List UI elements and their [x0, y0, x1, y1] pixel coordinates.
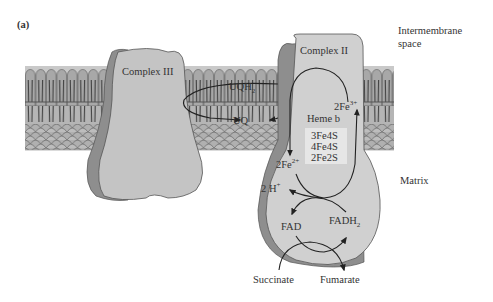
cluster-3fe4s: 3Fe4S [311, 130, 338, 141]
complex-ii-diagram: (a) Intermembrane space Complex III UQH2… [0, 0, 493, 302]
cluster-4fe4s: 4Fe4S [311, 141, 338, 152]
complex-iii-label: Complex III [122, 66, 174, 77]
matrix-label: Matrix [400, 175, 429, 186]
panel-label: (a) [17, 19, 30, 31]
cluster-2fe2s: 2Fe2S [311, 152, 338, 163]
fumarate-label: Fumarate [320, 274, 360, 285]
intermembrane-label: Intermembrane [398, 25, 462, 36]
complex-ii-label: Complex II [300, 45, 349, 56]
heme-b-label: Heme b [307, 113, 340, 124]
uq-label: UQ [233, 115, 249, 126]
succinate-label: Succinate [253, 274, 294, 285]
fad-label: FAD [281, 221, 302, 232]
intermembrane-label-line2: space [398, 38, 422, 49]
